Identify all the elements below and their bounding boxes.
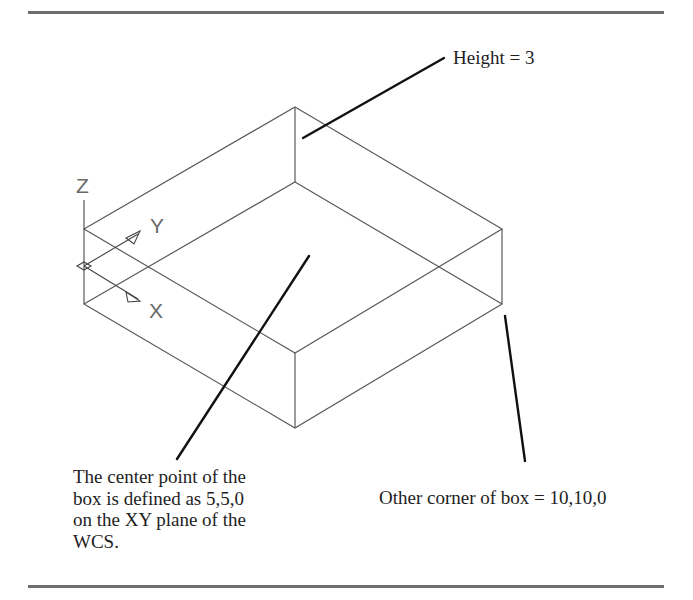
z-axis-label: Z (76, 175, 89, 197)
bottom-divider-rule (28, 585, 664, 588)
y-axis-line (84, 234, 138, 266)
center-point-text-line-2: box is defined as 5,5,0 (73, 488, 246, 510)
center-point-text-line-3: on the XY plane of the (73, 509, 246, 531)
center-point-text-line-4: WCS. (73, 531, 246, 553)
height-leader-line (303, 58, 444, 138)
y-axis-label: Y (150, 215, 164, 237)
x-arrowhead-icon (126, 292, 140, 302)
box-bottom-face (84, 182, 502, 428)
height-label: Height = 3 (453, 47, 534, 69)
center-point-text-line-1: The center point of the (73, 466, 246, 488)
wireframe-box (84, 107, 502, 428)
other-corner-label: Other corner of box = 10,10,0 (379, 487, 607, 509)
box-top-face (84, 107, 502, 353)
center-point-leader-line (177, 256, 309, 459)
leader-lines (177, 58, 525, 461)
center-point-callout: The center point of the box is defined a… (73, 466, 246, 552)
x-axis-label: X (149, 300, 163, 322)
other-corner-leader-line (505, 316, 525, 461)
